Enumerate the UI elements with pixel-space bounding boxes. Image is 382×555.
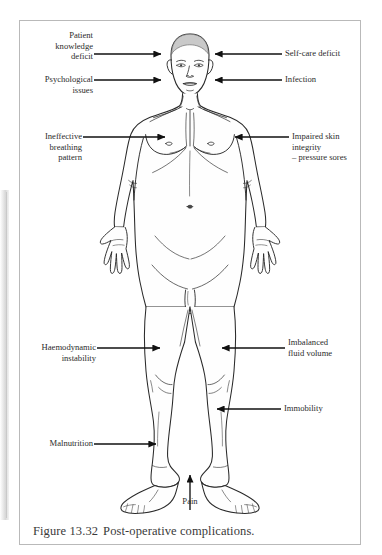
label-ineffective-breathing-pattern: Ineffective breathing pattern [14,131,82,163]
label-malnutrition: Malnutrition [25,438,93,449]
label-impaired-skin-integrity: Impaired skin integrity – pressure sores [292,131,378,163]
figure-caption-text: Post-operative complications. [103,524,254,538]
hand-left [100,227,129,273]
figure-page: Patient knowledge deficit Psychological … [0,0,382,555]
figure-number: Figure 13.32 [33,524,98,538]
leg-right-outline [190,307,236,487]
navel [187,205,193,208]
leg-left-outline [144,307,190,487]
label-haemodynamic-instability: Haemodynamic instability [13,342,96,363]
label-pain: Pain [166,496,214,507]
figure-caption: Figure 13.32Post-operative complications… [33,524,255,539]
pupil-left [180,64,182,66]
label-patient-knowledge-deficit: Patient knowledge deficit [25,30,93,62]
scanned-page-gutter [0,190,9,520]
label-imbalanced-fluid-volume: Imbalanced fluid volume [288,337,374,358]
hand-right [251,227,280,273]
pupil-right [198,64,200,66]
human-figure-anterior [100,34,279,513]
label-infection: Infection [285,74,377,85]
label-immobility: Immobility [284,403,370,414]
scanned-page-gutter-line [6,192,7,518]
label-psychological-issues: Psychological issues [13,74,93,95]
label-self-care-deficit: Self-care deficit [285,48,377,59]
